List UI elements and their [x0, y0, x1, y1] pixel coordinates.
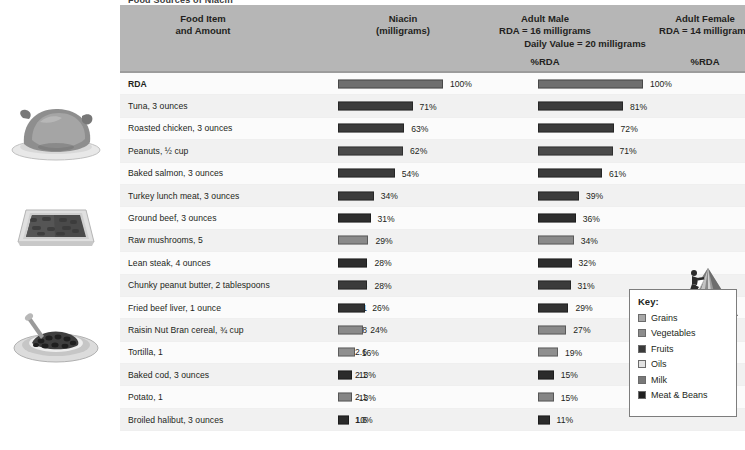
- male-pct-rda-label: 16%: [362, 347, 379, 357]
- legend-item-label: Grains: [651, 313, 678, 323]
- legend-item-label: Milk: [651, 375, 667, 385]
- food-item-label: Peanuts, ½ cup: [128, 146, 188, 156]
- food-item-label: Chunky peanut butter, 2 tablespoons: [128, 280, 270, 290]
- female-pct-rda-label: 81%: [630, 101, 647, 111]
- male-bar-cell: 24%: [338, 325, 538, 334]
- male-pct-rda-bar: [338, 415, 349, 424]
- food-item-label: Potato, 1: [128, 392, 163, 402]
- male-pct-rda-label: 100%: [450, 79, 472, 89]
- female-pct-rda-bar: [538, 303, 568, 312]
- male-pct-rda-bar: [338, 303, 365, 312]
- header-food-item: Food Item and Amount: [128, 13, 278, 36]
- male-pct-rda-bar: [338, 169, 395, 178]
- female-pct-rda-bar: [538, 146, 613, 155]
- food-item-label: Tuna, 3 ounces: [128, 101, 188, 111]
- female-pct-rda-label: 31%: [578, 280, 595, 290]
- header-adult-female: Adult Female RDA = 14 milligrams: [620, 13, 745, 36]
- female-pct-rda-label: 15%: [561, 392, 578, 402]
- male-bar-cell: 62%: [338, 146, 538, 155]
- male-pct-rda-bar: [338, 102, 413, 111]
- legend-swatch-icon: [638, 314, 646, 322]
- legend-list: GrainsVegetablesFruitsOilsMilkMeat & Bea…: [638, 310, 736, 403]
- food-item-label: Ground beef, 3 ounces: [128, 213, 216, 223]
- table-row: Tuna, 3 ounces11.371%81%: [120, 95, 745, 117]
- male-bar-cell: 13%: [338, 370, 538, 379]
- male-bar-cell: 100%: [338, 79, 538, 88]
- legend-swatch-icon: [638, 329, 646, 337]
- male-pct-rda-bar: [338, 79, 443, 88]
- male-pct-rda-bar: [338, 258, 367, 267]
- female-pct-rda-label: 29%: [575, 303, 592, 313]
- legend-title: Key:: [638, 296, 736, 307]
- legend-item-label: Meat & Beans: [651, 390, 708, 400]
- table-row: Turkey lunch meat, 3 ounces5.434%39%: [120, 185, 745, 207]
- male-pct-rda-label: 26%: [372, 303, 389, 313]
- male-pct-rda-label: 28%: [374, 258, 391, 268]
- female-bar-cell: 61%: [538, 169, 738, 178]
- female-bar-cell: 34%: [538, 236, 738, 245]
- nutrition-chart-page: Food Sources of Niacin Food Item and Amo…: [0, 0, 745, 450]
- female-pct-rda-bar: [538, 281, 571, 290]
- male-pct-rda-label: 31%: [378, 213, 395, 223]
- male-pct-rda-bar: [338, 236, 368, 245]
- male-bar-cell: 10%: [338, 415, 538, 424]
- table-row: Roasted chicken, 3 ounces10.163%72%: [120, 118, 745, 140]
- legend-item: Vegetables: [638, 326, 736, 342]
- female-pct-rda-label: 71%: [620, 146, 637, 156]
- female-pct-rda-bar: [538, 370, 554, 379]
- table-header: Food Item and Amount Niacin (milligrams)…: [120, 5, 745, 73]
- male-pct-rda-label: 71%: [420, 101, 437, 111]
- male-bar-cell: 13%: [338, 393, 538, 402]
- female-pct-rda-bar: [538, 102, 623, 111]
- female-bar-cell: 71%: [538, 146, 738, 155]
- roast-chicken-photo: [6, 100, 106, 162]
- ground-beef-photo: [10, 196, 102, 254]
- female-bar-cell: 36%: [538, 214, 738, 223]
- male-pct-rda-bar: [338, 325, 363, 334]
- female-pct-rda-bar: [538, 236, 574, 245]
- legend-item-label: Oils: [651, 359, 667, 369]
- female-pct-rda-bar: [538, 348, 558, 357]
- female-pct-rda-bar: [538, 258, 572, 267]
- legend-swatch-icon: [638, 391, 646, 399]
- female-pct-rda-label: 27%: [573, 325, 590, 335]
- legend-item-label: Fruits: [651, 344, 674, 354]
- male-pct-rda-label: 13%: [359, 370, 376, 380]
- table-row: Ground beef, 3 ounces5.031%36%: [120, 207, 745, 229]
- table-row: Raw mushrooms, 54.729%34%: [120, 230, 745, 252]
- male-pct-rda-bar: [338, 393, 352, 402]
- header-pct-rda-male: %RDA: [460, 56, 630, 68]
- legend-item-label: Vegetables: [651, 328, 696, 338]
- header-pct-rda-female: %RDA: [620, 56, 745, 68]
- male-pct-rda-label: 10%: [356, 415, 373, 425]
- female-pct-rda-bar: [538, 191, 579, 200]
- legend-key: Key: GrainsVegetablesFruitsOilsMilkMeat …: [629, 289, 737, 417]
- male-pct-rda-label: 63%: [411, 123, 428, 133]
- male-pct-rda-bar: [338, 348, 355, 357]
- legend-swatch-icon: [638, 345, 646, 353]
- female-pct-rda-bar: [538, 325, 566, 334]
- male-pct-rda-label: 62%: [410, 146, 427, 156]
- food-item-label: Fried beef liver, 1 ounce: [128, 303, 221, 313]
- table-row: Baked salmon, 3 ounces8.654%61%: [120, 163, 745, 185]
- female-pct-rda-label: 34%: [581, 235, 598, 245]
- female-bar-cell: 39%: [538, 191, 738, 200]
- legend-item: Meat & Beans: [638, 388, 736, 404]
- female-pct-rda-label: 100%: [650, 79, 672, 89]
- female-pct-rda-label: 39%: [586, 191, 603, 201]
- header-daily-value: Daily Value = 20 milligrams: [420, 38, 745, 50]
- male-pct-rda-label: 34%: [381, 191, 398, 201]
- male-pct-rda-bar: [338, 370, 352, 379]
- food-item-label: Turkey lunch meat, 3 ounces: [128, 191, 239, 201]
- food-item-label: Roasted chicken, 3 ounces: [128, 123, 232, 133]
- female-pct-rda-label: 11%: [557, 415, 574, 425]
- beans-bowl-photo: [10, 310, 102, 366]
- male-bar-cell: 16%: [338, 348, 538, 357]
- food-item-label: Broiled halibut, 3 ounces: [128, 415, 223, 425]
- female-bar-cell: 81%: [538, 102, 738, 111]
- food-item-label: RDA: [128, 79, 147, 89]
- food-item-label: Lean steak, 4 ounces: [128, 258, 211, 268]
- female-bar-cell: 72%: [538, 124, 738, 133]
- male-pct-rda-bar: [338, 124, 404, 133]
- male-bar-cell: 28%: [338, 281, 538, 290]
